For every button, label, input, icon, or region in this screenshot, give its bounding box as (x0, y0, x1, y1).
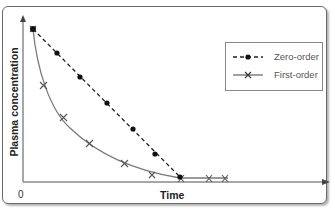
chart-plot (0, 0, 335, 215)
x-axis-label: Time (160, 189, 184, 201)
legend-label-zero-order: Zero-order (274, 51, 319, 62)
first-order-markers (30, 26, 228, 182)
y-axis-label: Plasma concentration (8, 42, 20, 162)
x-axis-arrow-icon (322, 179, 330, 185)
y-axis-arrow-icon (20, 15, 26, 22)
origin-label: 0 (18, 189, 24, 200)
legend-zero-order-marker-icon (245, 54, 250, 59)
first-order-curve (33, 29, 228, 178)
legend: Zero-order First-order (225, 42, 323, 91)
legend-label-first-order: First-order (274, 69, 318, 80)
